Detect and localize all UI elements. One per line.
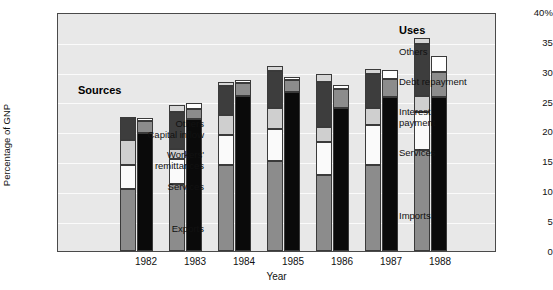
y-tick-label: 15 (501, 157, 553, 167)
legend-item-uses-services: Services (399, 147, 497, 158)
bar-segment-others (414, 38, 430, 44)
bar-segment-exports (316, 175, 332, 251)
x-axis-title: Year (0, 271, 553, 282)
bar-segment-workers-remittances (365, 108, 381, 126)
bar-segment-others (218, 82, 234, 86)
legend-item-sources-services: Services (58, 181, 204, 192)
bar-segment-exports (218, 165, 234, 252)
bar-segment-others (235, 80, 251, 82)
bar-segment-services (235, 83, 251, 96)
bar-segment-capital-inflow (316, 82, 332, 127)
bar-segment-workers-remittances (316, 127, 332, 142)
chart-figure: Percentage of GNP 40% 35 30 25 20 15 10 … (0, 0, 553, 290)
bar-segment-exports (169, 184, 185, 251)
bar-segment-others (333, 85, 349, 89)
bar-segment-imports (382, 97, 398, 251)
bar-segment-others (169, 105, 185, 112)
y-tick-label: 20 (501, 127, 553, 137)
legend-item-uses-others: Others (399, 46, 497, 57)
bar-segment-exports (365, 165, 381, 252)
bar-segment-workers-remittances (267, 108, 283, 129)
legend-item-sources-exports: Exports (58, 223, 204, 234)
legend-item-uses-imports: Imports (399, 210, 497, 221)
y-tick-label: 40% (501, 8, 553, 18)
bar-segment-services (316, 142, 332, 175)
legend-item-uses-interest-payment-2: payment (399, 117, 497, 128)
bar-segment-services (382, 79, 398, 97)
y-tick-label: 30 (501, 68, 553, 78)
plot-area: Sources Others Capital inflow Workers' r… (57, 13, 496, 252)
legend-item-sources-workers-remittances-1: Workers' (58, 149, 204, 160)
bar-segment-services (365, 125, 381, 164)
y-tick-label: 0 (501, 247, 553, 257)
y-tick-label: 35 (501, 38, 553, 48)
bar-segment-exports (414, 150, 430, 251)
bar-segment-others (382, 70, 398, 79)
bar-segment-exports (120, 189, 136, 251)
bar-segment-services (333, 89, 349, 108)
bar-segment-imports (235, 96, 251, 251)
bar-segment-others (186, 103, 202, 110)
x-tick-label-1988: 1988 (410, 256, 470, 267)
y-tick-label: 10 (501, 187, 553, 197)
bar-segment-others (284, 77, 300, 80)
legend-item-uses-debt-repayment: Debt repayment (399, 76, 497, 87)
y-tick-label: 5 (501, 217, 553, 227)
legend-item-sources-capital-inflow: Capital inflow (58, 129, 204, 140)
y-tick-label: 25 (501, 98, 553, 108)
y-axis-title: Percentage of GNP (1, 0, 15, 290)
bar-segment-capital-inflow (267, 71, 283, 108)
legend-item-sources-workers-remittances-2: remittances (58, 160, 204, 171)
bar-segment-capital-inflow (365, 74, 381, 107)
bar-segment-services (218, 135, 234, 164)
bar-segment-services (267, 129, 283, 161)
left-legend-title: Sources (78, 84, 121, 96)
bar-segment-capital-inflow (218, 86, 234, 116)
bar-segment-services (284, 80, 300, 92)
bar-segment-others (365, 69, 381, 74)
bar-segment-exports (267, 161, 283, 251)
bar-segment-others (431, 56, 447, 73)
legend-item-uses-interest-payment-1: Interest (399, 106, 497, 117)
right-legend-title: Uses (399, 24, 425, 36)
bar-segment-imports (284, 92, 300, 251)
bar-segment-workers-remittances (218, 115, 234, 135)
bar-segment-others (267, 66, 283, 72)
bar-segment-imports (333, 108, 349, 251)
legend-item-sources-others: Others (58, 118, 204, 129)
bar-segment-others (316, 74, 332, 81)
